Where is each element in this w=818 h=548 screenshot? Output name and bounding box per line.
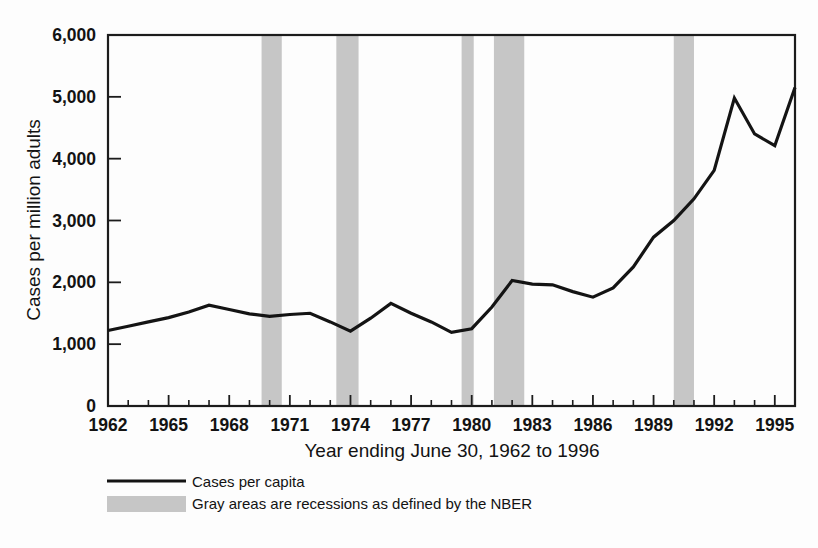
recession-band bbox=[336, 35, 358, 406]
recession-band bbox=[262, 35, 282, 406]
line-chart: 01,0002,0003,0004,0005,0006,000 19621965… bbox=[0, 0, 818, 548]
x-tick-label: 1971 bbox=[270, 415, 309, 435]
y-axis-title: Cases per million adults bbox=[23, 119, 44, 321]
recession-band bbox=[462, 35, 474, 406]
recession-band bbox=[494, 35, 524, 406]
legend-label-series: Cases per capita bbox=[192, 473, 305, 490]
y-tick-label: 2,000 bbox=[52, 272, 96, 292]
x-axis-title: Year ending June 30, 1962 to 1996 bbox=[304, 440, 599, 461]
x-tick-label: 1986 bbox=[573, 415, 612, 435]
recession-band bbox=[674, 35, 694, 406]
y-tick-label: 6,000 bbox=[52, 25, 96, 45]
y-axis-ticks-group: 01,0002,0003,0004,0005,0006,000 bbox=[52, 25, 121, 416]
legend-label-recessions: Gray areas are recessions as defined by … bbox=[192, 495, 532, 512]
y-tick-label: 1,000 bbox=[52, 334, 96, 354]
y-tick-label: 5,000 bbox=[52, 87, 96, 107]
x-tick-label: 1995 bbox=[755, 415, 794, 435]
x-tick-label: 1980 bbox=[452, 415, 491, 435]
x-tick-label: 1968 bbox=[210, 415, 249, 435]
x-tick-label: 1977 bbox=[392, 415, 431, 435]
y-tick-label: 0 bbox=[86, 396, 96, 416]
chart-figure: 01,0002,0003,0004,0005,0006,000 19621965… bbox=[0, 0, 818, 548]
y-tick-label: 4,000 bbox=[52, 149, 96, 169]
x-tick-label: 1962 bbox=[89, 415, 128, 435]
x-tick-label: 1983 bbox=[513, 415, 552, 435]
x-tick-label: 1992 bbox=[695, 415, 734, 435]
x-tick-label: 1989 bbox=[634, 415, 673, 435]
recession-bands-group bbox=[262, 35, 694, 406]
x-tick-label: 1974 bbox=[331, 415, 370, 435]
x-tick-label: 1965 bbox=[149, 415, 188, 435]
chart-legend: Cases per capita Gray areas are recessio… bbox=[107, 473, 532, 512]
y-tick-label: 3,000 bbox=[52, 211, 96, 231]
legend-band-swatch bbox=[107, 496, 186, 512]
